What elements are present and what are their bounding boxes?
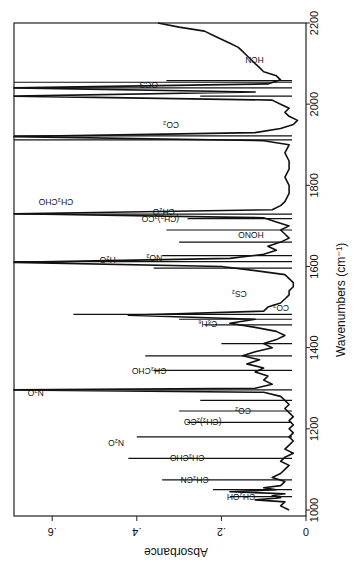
annotation: CH₃CN [181, 475, 209, 485]
y-tick-label: .6 [48, 526, 57, 538]
svg-text:CH₃CHO: CH₃CHO [131, 366, 166, 376]
svg-text:CH₃CN: CH₃CN [181, 475, 209, 485]
annotation: CH₃CHO [169, 453, 204, 463]
svg-text:HONO: HONO [238, 230, 264, 240]
annotation: (CH₃)₂CO [184, 417, 222, 427]
y-axis-label: Absorbance [144, 545, 208, 559]
svg-text:N₂O: N₂O [27, 388, 43, 398]
annotation: HCN [245, 55, 263, 65]
annotation: HONO [238, 230, 264, 240]
annotation: H₂O [99, 255, 115, 265]
svg-text:CO₂: CO₂ [235, 406, 251, 416]
y-tick-label: 0 [303, 526, 309, 538]
svg-text:CH₃CHO: CH₃CHO [38, 197, 73, 207]
x-tick-label: 2000 [308, 92, 320, 116]
x-tick-label: 1800 [308, 173, 320, 197]
annotation: CO₂ [235, 406, 251, 416]
x-tick-label: 1000 [308, 498, 320, 522]
svg-text:CS₂: CS₂ [232, 289, 247, 299]
svg-text:CO₂: CO₂ [273, 303, 289, 313]
svg-text:C₆H₆: C₆H₆ [198, 319, 217, 329]
annotation: CO₂ [273, 303, 289, 313]
svg-text:N₂O: N₂O [108, 438, 124, 448]
svg-text:(CH₃)₂CO: (CH₃)₂CO [184, 417, 222, 427]
annotation: CS₂ [232, 289, 247, 299]
x-tick-label: 1600 [308, 254, 320, 278]
x-tick-label: 1400 [308, 335, 320, 359]
svg-text:H₂O: H₂O [99, 255, 115, 265]
x-tick-label: 1200 [308, 417, 320, 441]
annotation: N₂O [27, 388, 43, 398]
annotation: OCS [139, 80, 158, 90]
svg-text:CH₃OH: CH₃OH [227, 492, 256, 502]
annotation: NO₂ [146, 253, 162, 263]
svg-text:CH₂O: CH₂O [152, 207, 175, 217]
svg-text:CO₂: CO₂ [163, 120, 179, 130]
y-tick-label: .4 [132, 526, 141, 538]
svg-text:HCN: HCN [245, 55, 263, 65]
annotation: CO₂ [163, 120, 179, 130]
svg-text:NO₂: NO₂ [146, 253, 162, 263]
annotation: CH₃CHO [38, 197, 73, 207]
svg-text:OCS: OCS [139, 80, 158, 90]
y-tick-label: .2 [217, 526, 226, 538]
annotation: N₂O [108, 438, 124, 448]
x-tick-label: 2200 [308, 11, 320, 35]
spectrum-chart: 1000120014001600180020002200 0.2.4.6 CH₃… [0, 0, 355, 564]
annotation: CH₂O [152, 207, 175, 217]
x-axis-label: Wavenumbers (cm⁻¹) [334, 243, 348, 357]
annotation: CH₃CHO [131, 366, 166, 376]
annotation: CH₃OH [227, 492, 256, 502]
annotation: C₆H₆ [198, 319, 217, 329]
svg-text:CH₃CHO: CH₃CHO [169, 453, 204, 463]
